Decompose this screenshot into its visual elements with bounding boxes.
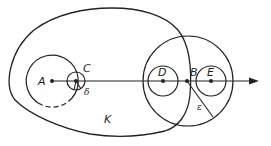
label-a: A: [37, 75, 46, 88]
arrow-head-icon: [249, 78, 259, 85]
label-epsilon: ε: [197, 102, 202, 112]
point-e: [209, 79, 213, 83]
point-b: [185, 79, 189, 83]
label-b: B: [190, 66, 198, 79]
diagram-canvas: A C δ K D B E ε: [0, 0, 271, 146]
label-delta: δ: [84, 87, 89, 97]
circle-a-dashed: [42, 98, 72, 107]
label-k: K: [104, 113, 112, 126]
point-d: [161, 79, 165, 83]
label-d: D: [158, 66, 166, 79]
point-c: [74, 79, 78, 83]
label-c: C: [83, 62, 91, 75]
point-a: [50, 79, 54, 83]
label-e: E: [207, 66, 214, 79]
